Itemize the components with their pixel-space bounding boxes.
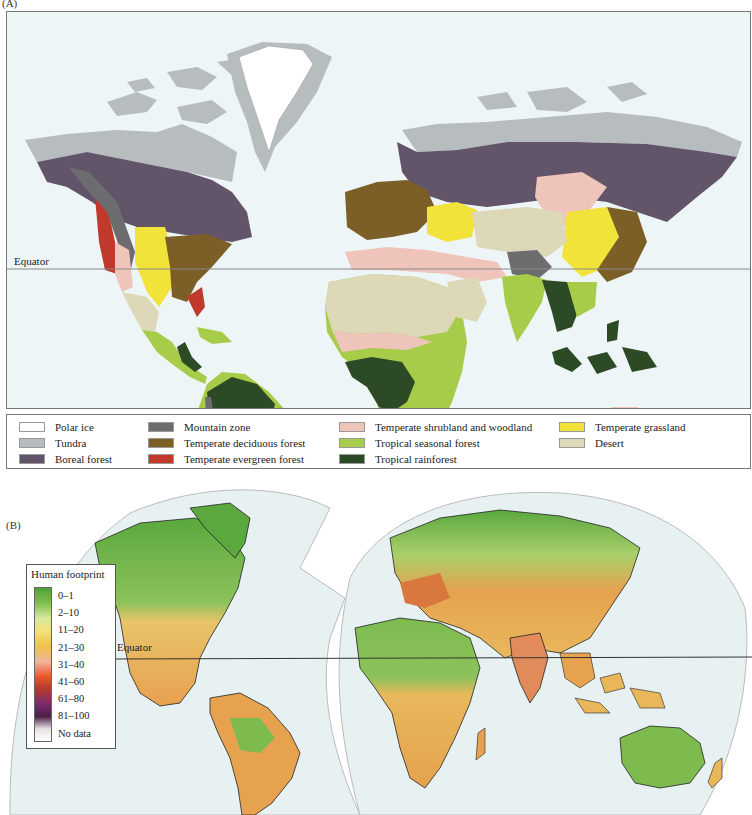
- legend-label: Tropical seasonal forest: [375, 437, 480, 449]
- boreal-forest-swatch: [19, 454, 45, 464]
- tundra-swatch: [19, 438, 45, 448]
- biome-legend: Polar ice Tundra Boreal forest Mountain …: [6, 414, 751, 469]
- legend-tick: 31–40: [58, 656, 91, 673]
- legend-tick: 21–30: [58, 639, 91, 656]
- legend-item-temperate-grassland: Temperate grassland: [559, 420, 686, 434]
- legend-label: Tropical rainforest: [375, 453, 457, 465]
- legend-item-temperate-deciduous-forest: Temperate deciduous forest: [148, 436, 305, 450]
- polar-ice-swatch: [19, 422, 45, 432]
- color-ramp: [34, 587, 52, 742]
- desert-swatch: [559, 438, 585, 448]
- legend-item-desert: Desert: [559, 436, 624, 450]
- panel-a-label: (A): [2, 0, 17, 9]
- legend-label: Mountain zone: [184, 421, 250, 433]
- legend-tick: 11–20: [58, 621, 91, 638]
- legend-item-tundra: Tundra: [19, 436, 86, 450]
- legend-title: Human footprint: [31, 568, 105, 580]
- temperate-deciduous-forest-swatch: [148, 438, 174, 448]
- legend-label: Tundra: [55, 437, 86, 449]
- legend-item-mountain-zone: Mountain zone: [148, 420, 250, 434]
- biome-map: Equator: [6, 11, 751, 409]
- legend-label: Temperate grassland: [595, 421, 686, 433]
- temperate-grassland-swatch: [559, 422, 585, 432]
- legend-tick: No data: [58, 725, 91, 742]
- legend-tick: 2–10: [58, 604, 91, 621]
- tropical-seasonal-forest-swatch: [339, 438, 365, 448]
- legend-label: Temperate shrubland and woodland: [375, 421, 532, 433]
- temperate-shrubland-swatch: [339, 422, 365, 432]
- legend-item-boreal-forest: Boreal forest: [19, 452, 112, 466]
- legend-tick: 61–80: [58, 690, 91, 707]
- human-footprint-legend: Human footprint 0–1 2–10 11–20 21–30 31–…: [26, 564, 116, 749]
- legend-item-temperate-evergreen-forest: Temperate evergreen forest: [148, 452, 304, 466]
- legend-item-polar-ice: Polar ice: [19, 420, 94, 434]
- tropical-rainforest-swatch: [339, 454, 365, 464]
- legend-label: Polar ice: [55, 421, 94, 433]
- biome-map-graphic: [7, 12, 750, 408]
- mountain-zone-swatch: [148, 422, 174, 432]
- temperate-evergreen-forest-swatch: [148, 454, 174, 464]
- equator-label-b: Equator: [117, 641, 152, 653]
- legend-ticks: 0–1 2–10 11–20 21–30 31–40 41–60 61–80 8…: [58, 587, 91, 742]
- australia: [582, 407, 667, 408]
- legend-label: Boreal forest: [55, 453, 112, 465]
- legend-tick: 81–100: [58, 707, 91, 724]
- legend-item-tropical-rainforest: Tropical rainforest: [339, 452, 457, 466]
- legend-item-temperate-shrubland: Temperate shrubland and woodland: [339, 420, 532, 434]
- legend-item-tropical-seasonal-forest: Tropical seasonal forest: [339, 436, 480, 450]
- legend-tick: 41–60: [58, 673, 91, 690]
- india: [502, 274, 547, 342]
- legend-label: Desert: [595, 437, 624, 449]
- legend-tick: 0–1: [58, 587, 91, 604]
- equator-label-a: Equator: [14, 255, 49, 267]
- legend-label: Temperate deciduous forest: [184, 437, 305, 449]
- legend-label: Temperate evergreen forest: [184, 453, 304, 465]
